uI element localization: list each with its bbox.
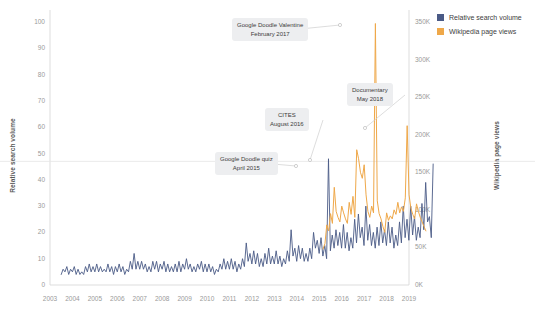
annotation-line-2: August 2016: [270, 120, 304, 129]
annotation-cites: CITESAugust 2016: [265, 108, 309, 131]
annotation-google-doodle-quiz: Google Doodle quizApril 2015: [215, 152, 278, 175]
legend-label: Wikipedia page views: [449, 28, 516, 35]
annotation-point-google-doodle-quiz: [294, 164, 297, 167]
annotation-line-1: Documentary: [352, 86, 388, 95]
legend-label: Relative search volume: [449, 14, 522, 21]
legend-item-search-volume[interactable]: Relative search volume: [437, 14, 522, 21]
annotation-line-2: April 2015: [220, 164, 273, 173]
annotation-documentary: DocumentaryMay 2018: [347, 83, 393, 106]
annotation-google-doodle-valentine: Google Doodle ValentineFebruary 2017: [232, 18, 308, 41]
legend-item-page-views[interactable]: Wikipedia page views: [437, 28, 516, 35]
legend-swatch-icon: [437, 28, 444, 35]
annotation-line-1: Google Doodle Valentine: [237, 21, 303, 30]
annotation-line-1: CITES: [270, 111, 304, 120]
annotation-point-documentary: [363, 126, 366, 129]
annotation-point-cites: [308, 158, 311, 161]
annotation-line-1: Google Doodle quiz: [220, 155, 273, 164]
annotation-line-2: February 2017: [237, 30, 303, 39]
annotation-leader-line-cites: [310, 120, 323, 160]
annotation-line-2: May 2018: [352, 95, 388, 104]
chart-container: Relative search volume Wikipedia page vi…: [0, 0, 535, 313]
annotation-point-google-doodle-valentine: [338, 23, 341, 26]
legend-swatch-icon: [437, 14, 444, 21]
